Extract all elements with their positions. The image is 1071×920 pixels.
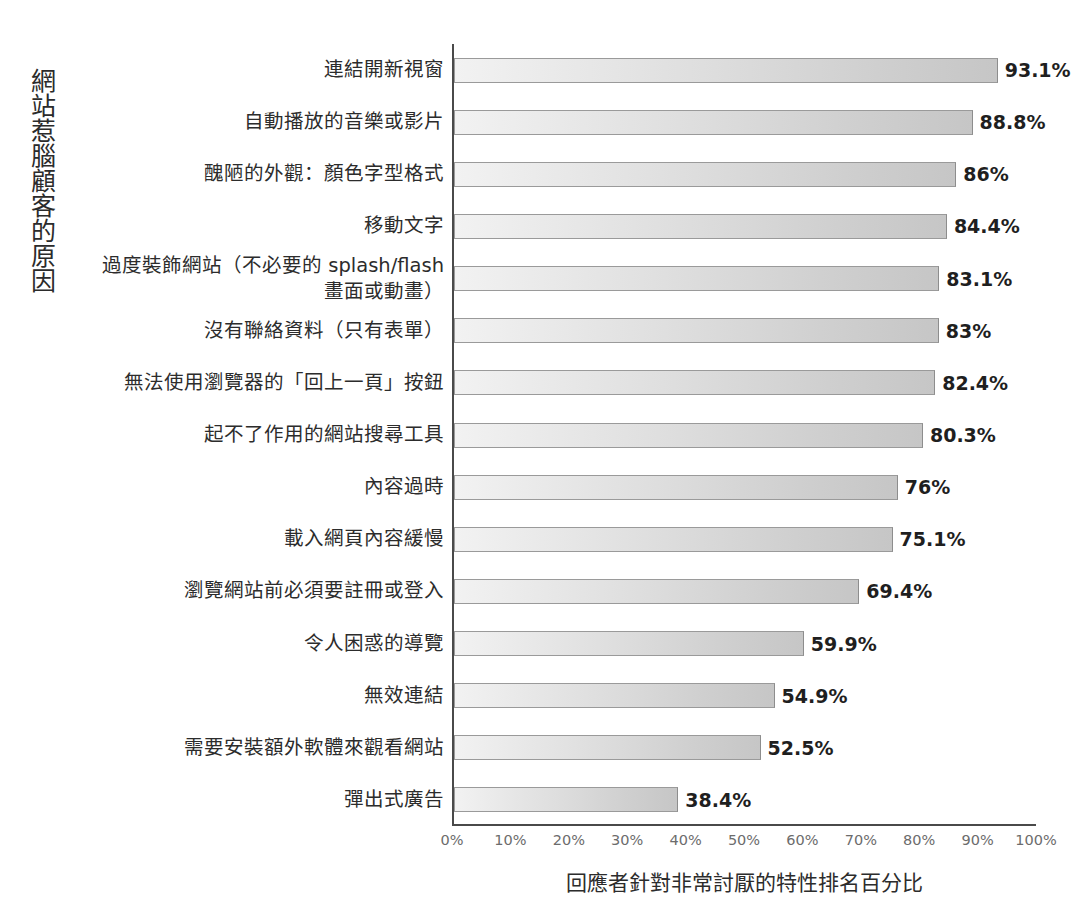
bar-value-label: 82.4%	[935, 372, 1008, 394]
x-axis-tick: 30%	[611, 832, 643, 848]
bar-row: 38.4%	[454, 787, 1036, 812]
bar-row: 82.4%	[454, 370, 1036, 395]
bar	[454, 162, 956, 187]
bar-value-label: 83%	[939, 320, 991, 342]
category-label: 無效連結	[52, 683, 444, 709]
bars-container: 93.1%88.8%86%84.4%83.1%83%82.4%80.3%76%7…	[454, 44, 1036, 824]
bar-row: 86%	[454, 162, 1036, 187]
category-label: 起不了作用的網站搜尋工具	[52, 422, 444, 448]
bar-row: 76%	[454, 475, 1036, 500]
bar-row: 59.9%	[454, 631, 1036, 656]
bar-value-label: 52.5%	[761, 737, 834, 759]
category-label: 移動文字	[52, 213, 444, 239]
bar-value-label: 76%	[898, 476, 950, 498]
y-axis-title: 網站惹腦顧客的原因	[18, 30, 56, 330]
category-label: 醜陋的外觀：顏色字型格式	[52, 161, 444, 187]
category-label: 無法使用瀏覽器的「回上一頁」按鈕	[52, 370, 444, 396]
x-axis-tick: 10%	[494, 832, 526, 848]
bar-value-label: 59.9%	[804, 633, 877, 655]
bar-row: 80.3%	[454, 423, 1036, 448]
bar-row: 54.9%	[454, 683, 1036, 708]
category-label: 自動播放的音樂或影片	[52, 109, 444, 135]
bar	[454, 787, 678, 812]
bar	[454, 318, 939, 343]
bar-row: 93.1%	[454, 58, 1036, 83]
x-axis-tick-list: 0%10%20%30%40%50%60%70%80%90%100%	[452, 832, 1036, 856]
x-axis-tick: 50%	[728, 832, 760, 848]
bar-value-label: 80.3%	[923, 424, 996, 446]
bar-value-label: 75.1%	[893, 528, 966, 550]
bar	[454, 110, 973, 135]
bar	[454, 370, 935, 395]
x-axis-tick: 20%	[553, 832, 585, 848]
bar-value-label: 83.1%	[939, 268, 1012, 290]
category-label: 令人困惑的導覽	[52, 631, 444, 657]
bar-row: 75.1%	[454, 527, 1036, 552]
bar	[454, 527, 893, 552]
category-label: 內容過時	[52, 474, 444, 500]
category-label: 過度裝飾網站（不必要的 splash/flash 畫面或動畫）	[52, 253, 444, 305]
plot-area: 93.1%88.8%86%84.4%83.1%83%82.4%80.3%76%7…	[452, 44, 1036, 826]
bar-value-label: 69.4%	[859, 580, 932, 602]
category-label: 瀏覽網站前必須要註冊或登入	[52, 578, 444, 604]
bar-row: 88.8%	[454, 110, 1036, 135]
category-label: 載入網頁內容緩慢	[52, 526, 444, 552]
bar	[454, 579, 859, 604]
category-label: 彈出式廣告	[52, 787, 444, 813]
bar	[454, 423, 923, 448]
category-label-list: 連結開新視窗自動播放的音樂或影片醜陋的外觀：顏色字型格式移動文字過度裝飾網站（不…	[52, 44, 444, 826]
x-axis-tick: 40%	[669, 832, 701, 848]
bar	[454, 683, 775, 708]
bar-value-label: 84.4%	[947, 215, 1020, 237]
category-label: 沒有聯絡資料（只有表單）	[52, 318, 444, 344]
bar-row: 84.4%	[454, 214, 1036, 239]
bar-row: 83%	[454, 318, 1036, 343]
bar-value-label: 54.9%	[775, 685, 848, 707]
bar	[454, 735, 761, 760]
bar	[454, 475, 898, 500]
x-axis-tick: 60%	[786, 832, 818, 848]
bar-value-label: 93.1%	[998, 59, 1071, 81]
x-axis-tick: 70%	[845, 832, 877, 848]
bar-value-label: 88.8%	[973, 111, 1046, 133]
bar-row: 52.5%	[454, 735, 1036, 760]
x-axis-tick: 90%	[961, 832, 993, 848]
bar-value-label: 86%	[956, 163, 1008, 185]
x-axis-title: 回應者針對非常討厭的特性排名百分比	[452, 866, 1036, 896]
bar-row: 69.4%	[454, 579, 1036, 604]
bar	[454, 214, 947, 239]
category-label: 需要安裝額外軟體來觀看網站	[52, 735, 444, 761]
bar	[454, 266, 939, 291]
bar-row: 83.1%	[454, 266, 1036, 291]
bar-value-label: 38.4%	[678, 789, 751, 811]
x-axis-tick: 80%	[903, 832, 935, 848]
x-axis-tick: 100%	[1015, 832, 1056, 848]
x-axis-tick: 0%	[440, 832, 463, 848]
bar	[454, 58, 998, 83]
category-label: 連結開新視窗	[52, 57, 444, 83]
bar	[454, 631, 804, 656]
